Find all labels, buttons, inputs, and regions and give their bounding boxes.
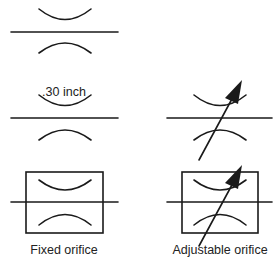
fixed-orifice-basic-symbol xyxy=(11,9,118,53)
fixed-orifice-dimensioned-symbol: .30 inch xyxy=(11,85,118,140)
adjustable-orifice-basic-symbol xyxy=(167,80,272,160)
dimension-label: .30 inch xyxy=(42,85,86,99)
lower-restriction-arc xyxy=(194,130,246,140)
adjustment-arrow-icon xyxy=(225,165,242,189)
lower-restriction-arc xyxy=(194,215,246,226)
upper-restriction-arc xyxy=(39,9,91,20)
fixed-orifice-caption: Fixed orifice xyxy=(30,243,97,257)
upper-restriction-arc xyxy=(39,180,91,190)
lower-restriction-arc xyxy=(39,215,91,226)
adjustable-orifice-caption: Adjustable orifice xyxy=(172,243,267,257)
orifice-symbols-diagram: .30 inch Fixed orifice Adjustable orific… xyxy=(0,0,278,264)
adjustment-arrow-shaft xyxy=(199,183,233,246)
lower-restriction-arc xyxy=(39,43,91,53)
fixed-orifice-boxed-symbol: Fixed orifice xyxy=(11,172,118,257)
adjustment-arrow-shaft xyxy=(199,97,233,160)
lower-restriction-arc xyxy=(39,130,91,140)
adjustable-orifice-boxed-symbol: Adjustable orifice xyxy=(167,165,272,257)
